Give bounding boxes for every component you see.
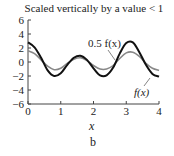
y-tick-label: −2	[12, 70, 24, 82]
x-axis-label: x	[89, 119, 94, 134]
y-tick-label: 4	[19, 28, 25, 40]
x-tick-label: 3	[124, 105, 130, 117]
y-tick-label: 2	[19, 42, 25, 54]
line-chart: 6420−2−4−6012340.5 f(x)f(x)	[0, 0, 174, 156]
annotation-half-f: 0.5 f(x)	[88, 37, 121, 50]
y-tick-label: 6	[19, 14, 25, 26]
annotation-leader	[144, 78, 150, 86]
x-tick-label: 2	[91, 105, 97, 117]
y-tick-label: 0	[19, 56, 25, 68]
annotation-leader	[108, 50, 115, 60]
x-tick-label: 0	[25, 105, 31, 117]
x-tick-label: 4	[156, 105, 162, 117]
y-tick-label: −6	[12, 98, 24, 110]
annotation-f: f(x)	[134, 86, 150, 99]
subfigure-label: b	[90, 135, 96, 150]
x-tick-label: 1	[58, 105, 64, 117]
y-tick-label: −4	[12, 84, 24, 96]
